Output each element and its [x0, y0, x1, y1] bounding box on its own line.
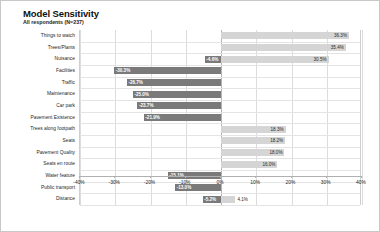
axis-tick-label: 20%: [286, 180, 296, 186]
bar-value-label-negative: -4.6%: [206, 56, 218, 63]
bar-value-label-positive: 35.4%: [331, 44, 344, 51]
category-label: Distance: [56, 196, 75, 202]
category-label: Things to watch: [41, 33, 75, 39]
bar-value-label-positive: 18.3%: [271, 126, 284, 133]
category-label: Public transport: [41, 185, 75, 191]
row-separator: [80, 65, 360, 66]
bar-value-label-negative: -5.2%: [204, 196, 216, 203]
axis-tick-label: -20%: [144, 180, 155, 186]
category-label: Trees/Plants: [48, 45, 75, 51]
row-separator: [80, 88, 360, 89]
bar-value-label-positive: 36.3%: [334, 32, 347, 39]
row-separator: [80, 147, 360, 148]
bar-value-label-negative: -23.7%: [139, 102, 154, 109]
bar-value-label-positive: 30.5%: [314, 56, 327, 63]
axis-tick-label: 10%: [250, 180, 260, 186]
bar-value-label-positive: 4.1%: [237, 196, 247, 203]
axis-tick-mark: [255, 176, 256, 178]
category-label: Traffic: [62, 80, 75, 86]
chart-subtitle: All respondents (N=237): [23, 19, 99, 26]
category-axis-labels: Things to watchTrees/PlantsNuisanceFacil…: [1, 30, 79, 205]
plot-area: Things to watchTrees/PlantsNuisanceFacil…: [1, 30, 380, 232]
row-separator: [80, 205, 360, 206]
category-label: Trees along footpath: [30, 126, 75, 132]
category-label: Pavement Existence: [30, 115, 75, 121]
row-separator: [80, 100, 360, 101]
category-label: Maintenance: [47, 91, 75, 97]
axis-tick-label: -30%: [109, 180, 120, 186]
bar-value-label-negative: -26.7%: [128, 79, 143, 86]
bar-value-label-positive: 16.0%: [262, 161, 275, 168]
axis-tick-label: 40%: [356, 180, 366, 186]
category-label: Car park: [56, 103, 75, 109]
axis-tick-mark: [220, 176, 221, 178]
row-separator: [80, 123, 360, 124]
category-label: Water feature: [46, 173, 75, 179]
title-block: Model Sensitivity All respondents (N=237…: [23, 8, 99, 26]
axis-tick-mark: [361, 176, 362, 178]
row-separator: [80, 42, 360, 43]
category-label: Seats: [62, 138, 75, 144]
axis-tick-label: -40%: [73, 180, 84, 186]
bar-positive[interactable]: [221, 56, 329, 63]
bar-value-label-positive: 18.2%: [270, 137, 283, 144]
bar-positive[interactable]: [221, 44, 346, 51]
row-separator: [80, 53, 360, 54]
bar-value-label-positive: 18.0%: [269, 149, 282, 156]
bar-positive[interactable]: [221, 32, 349, 39]
bar-value-label-negative: -25.0%: [134, 91, 149, 98]
axis-tick-label: 30%: [321, 180, 331, 186]
category-label: Nuisance: [55, 56, 75, 62]
axis-tick-mark: [291, 176, 292, 178]
axis-tick-mark: [114, 176, 115, 178]
row-separator: [80, 112, 360, 113]
row-separator: [80, 158, 360, 159]
row-separator: [80, 135, 360, 136]
category-label: Seats en route: [43, 161, 75, 167]
value-axis: -40%-30%-20%-10%0%10%20%30%40%: [79, 176, 361, 196]
chart-card: Model Sensitivity All respondents (N=237…: [0, 0, 380, 232]
category-label: Facilities: [56, 68, 75, 74]
bar-value-label-negative: -30.3%: [116, 67, 131, 74]
axis-tick-mark: [79, 176, 80, 178]
axis-tick-label: 0%: [216, 180, 223, 186]
axis-tick-label: -10%: [179, 180, 190, 186]
category-label: Pavement Quality: [36, 150, 75, 156]
bar-positive[interactable]: [221, 196, 235, 203]
axis-tick-mark: [326, 176, 327, 178]
row-separator: [80, 170, 360, 171]
axis-tick-mark: [185, 176, 186, 178]
chart-title: Model Sensitivity: [23, 8, 99, 19]
bar-value-label-negative: -21.9%: [145, 114, 160, 121]
axis-tick-mark: [150, 176, 151, 178]
grid-line: [362, 30, 363, 205]
row-separator: [80, 77, 360, 78]
